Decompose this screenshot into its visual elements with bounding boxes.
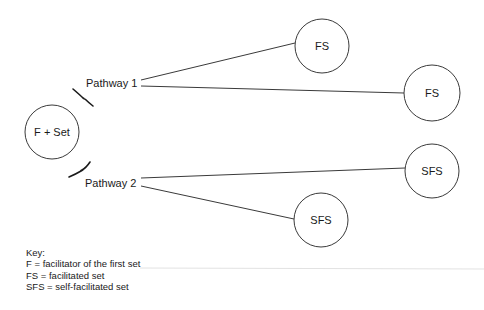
node-sfs-2-1: SFS [405,144,459,198]
node-label: FS [425,87,439,99]
target-nodes: FSFSSFSSFS [294,19,460,247]
origin-label: F + Set [34,126,70,138]
scan-artifact-line [140,268,484,269]
brace-pathway-2 [69,162,90,177]
key-title: Key: [26,247,140,258]
node-fs-1-2: FS [404,65,460,121]
key-legend: Key: F = facilitator of the first set FS… [26,247,140,292]
edge-pathway-1-1 [141,43,295,80]
key-entry-fs: FS = facilitated set [26,270,140,281]
pathway-labels: Pathway 1Pathway 2 [85,77,137,189]
node-label: SFS [421,165,442,177]
pathway-2-label: Pathway 2 [85,177,136,189]
origin-node: F + Set [25,105,79,159]
node-label: SFS [310,214,331,226]
edge-pathway-2-1 [141,168,405,178]
edge-pathway-1-2 [141,86,404,93]
node-sfs-2-2: SFS [294,193,348,247]
pathway-1-label: Pathway 1 [86,77,137,89]
key-entry-f: F = facilitator of the first set [26,258,140,269]
key-entry-sfs: SFS = self-facilitated set [26,281,140,292]
node-fs-1-1: FS [295,19,349,73]
node-label: FS [315,40,329,52]
brace-pathway-1 [73,89,93,106]
edge-pathway-2-2 [141,186,294,219]
edges [141,43,405,219]
